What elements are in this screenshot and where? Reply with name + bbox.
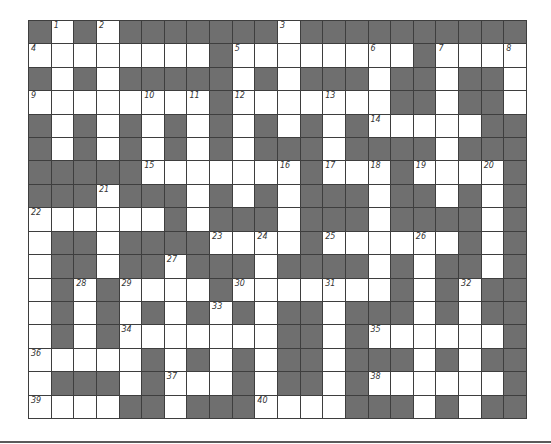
answer-cell[interactable] <box>187 185 209 207</box>
answer-cell[interactable] <box>187 115 209 137</box>
answer-cell[interactable] <box>369 255 391 277</box>
answer-cell[interactable] <box>323 372 345 394</box>
answer-cell[interactable]: 30 <box>233 279 255 301</box>
answer-cell[interactable] <box>346 161 368 183</box>
answer-cell[interactable] <box>233 185 255 207</box>
answer-cell[interactable] <box>436 91 458 113</box>
answer-cell[interactable] <box>301 279 323 301</box>
answer-cell[interactable]: 5 <box>233 44 255 66</box>
answer-cell[interactable] <box>255 302 277 324</box>
answer-cell[interactable]: 36 <box>29 349 51 371</box>
answer-cell[interactable] <box>255 325 277 347</box>
answer-cell[interactable] <box>482 232 504 254</box>
answer-cell[interactable] <box>187 372 209 394</box>
answer-cell[interactable] <box>74 44 96 66</box>
answer-cell[interactable] <box>482 185 504 207</box>
answer-cell[interactable] <box>97 349 119 371</box>
answer-cell[interactable]: 25 <box>323 232 345 254</box>
answer-cell[interactable] <box>74 349 96 371</box>
answer-cell[interactable] <box>29 279 51 301</box>
answer-cell[interactable] <box>142 208 164 230</box>
answer-cell[interactable] <box>52 115 74 137</box>
answer-cell[interactable] <box>97 138 119 160</box>
answer-cell[interactable] <box>391 325 413 347</box>
answer-cell[interactable] <box>142 44 164 66</box>
answer-cell[interactable]: 24 <box>255 232 277 254</box>
answer-cell[interactable] <box>436 325 458 347</box>
answer-cell[interactable] <box>187 44 209 66</box>
answer-cell[interactable] <box>301 396 323 418</box>
answer-cell[interactable] <box>459 44 481 66</box>
answer-cell[interactable] <box>323 325 345 347</box>
answer-cell[interactable] <box>391 372 413 394</box>
answer-cell[interactable] <box>323 138 345 160</box>
answer-cell[interactable] <box>187 279 209 301</box>
answer-cell[interactable] <box>414 396 436 418</box>
answer-cell[interactable] <box>414 372 436 394</box>
answer-cell[interactable]: 31 <box>323 279 345 301</box>
answer-cell[interactable] <box>278 44 300 66</box>
answer-cell[interactable] <box>52 91 74 113</box>
answer-cell[interactable] <box>233 161 255 183</box>
answer-cell[interactable]: 35 <box>369 325 391 347</box>
answer-cell[interactable] <box>278 232 300 254</box>
answer-cell[interactable] <box>97 115 119 137</box>
answer-cell[interactable]: 8 <box>504 44 526 66</box>
answer-cell[interactable] <box>142 279 164 301</box>
answer-cell[interactable] <box>346 279 368 301</box>
answer-cell[interactable] <box>120 208 142 230</box>
answer-cell[interactable] <box>323 302 345 324</box>
answer-cell[interactable] <box>255 44 277 66</box>
answer-cell[interactable] <box>187 161 209 183</box>
answer-cell[interactable] <box>165 349 187 371</box>
answer-cell[interactable] <box>165 396 187 418</box>
answer-cell[interactable] <box>233 115 255 137</box>
answer-cell[interactable] <box>210 372 232 394</box>
answer-cell[interactable] <box>323 115 345 137</box>
answer-cell[interactable] <box>436 68 458 90</box>
answer-cell[interactable]: 27 <box>165 255 187 277</box>
answer-cell[interactable] <box>436 161 458 183</box>
answer-cell[interactable] <box>459 161 481 183</box>
answer-cell[interactable] <box>346 44 368 66</box>
answer-cell[interactable] <box>29 302 51 324</box>
answer-cell[interactable] <box>255 372 277 394</box>
answer-cell[interactable]: 14 <box>369 115 391 137</box>
answer-cell[interactable]: 19 <box>414 161 436 183</box>
answer-cell[interactable] <box>165 161 187 183</box>
answer-cell[interactable] <box>323 396 345 418</box>
answer-cell[interactable] <box>52 396 74 418</box>
answer-cell[interactable] <box>165 44 187 66</box>
answer-cell[interactable] <box>97 208 119 230</box>
answer-cell[interactable]: 11 <box>187 91 209 113</box>
answer-cell[interactable] <box>210 349 232 371</box>
answer-cell[interactable] <box>142 138 164 160</box>
answer-cell[interactable] <box>346 91 368 113</box>
answer-cell[interactable] <box>459 396 481 418</box>
answer-cell[interactable] <box>436 138 458 160</box>
answer-cell[interactable] <box>278 185 300 207</box>
answer-cell[interactable] <box>504 91 526 113</box>
answer-cell[interactable]: 40 <box>255 396 277 418</box>
answer-cell[interactable] <box>414 115 436 137</box>
answer-cell[interactable]: 32 <box>459 279 481 301</box>
answer-cell[interactable] <box>391 232 413 254</box>
answer-cell[interactable] <box>187 208 209 230</box>
answer-cell[interactable] <box>323 44 345 66</box>
answer-cell[interactable]: 3 <box>278 21 300 43</box>
answer-cell[interactable] <box>482 208 504 230</box>
answer-cell[interactable] <box>369 232 391 254</box>
answer-cell[interactable] <box>255 91 277 113</box>
answer-cell[interactable] <box>482 325 504 347</box>
answer-cell[interactable]: 12 <box>233 91 255 113</box>
answer-cell[interactable]: 15 <box>142 161 164 183</box>
answer-cell[interactable]: 22 <box>29 208 51 230</box>
answer-cell[interactable] <box>459 115 481 137</box>
answer-cell[interactable]: 39 <box>29 396 51 418</box>
answer-cell[interactable] <box>120 44 142 66</box>
answer-cell[interactable] <box>301 44 323 66</box>
answer-cell[interactable] <box>414 349 436 371</box>
answer-cell[interactable] <box>255 161 277 183</box>
answer-cell[interactable] <box>391 44 413 66</box>
answer-cell[interactable] <box>165 302 187 324</box>
